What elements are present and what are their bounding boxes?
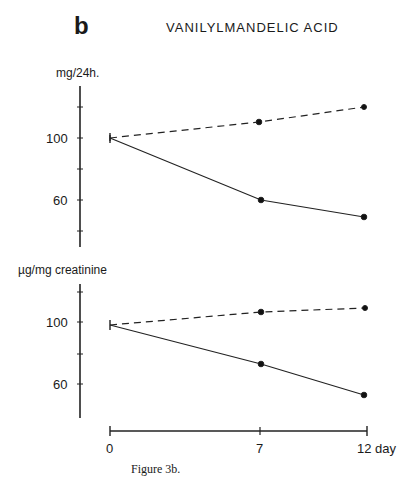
chart-canvas — [0, 0, 414, 493]
x-axis — [110, 426, 367, 436]
upper-y-axis — [77, 86, 83, 247]
lower-y-axis — [77, 284, 83, 418]
lower-series-solid — [110, 325, 367, 398]
lower-series-dashed — [110, 306, 368, 331]
upper-series-dashed — [110, 105, 367, 142]
upper-series-solid — [110, 138, 367, 220]
